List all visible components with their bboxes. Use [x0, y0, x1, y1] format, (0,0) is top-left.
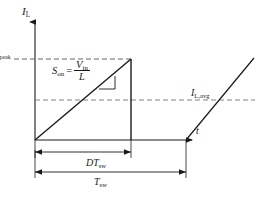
slope-symbol: Son [52, 65, 64, 76]
inductor-current-waveform-figure: IL Ipeak IL,avg t DTsw Tsw Son = Vin L [0, 0, 262, 203]
equals-sign: = [65, 65, 73, 76]
duty-cycle-label-main: DT [86, 157, 99, 168]
slope-formula: Son = Vin L [52, 59, 90, 82]
slope-triangle [99, 76, 115, 89]
y-axis-label-subscript: L [26, 11, 30, 19]
fraction-denominator: L [77, 71, 87, 82]
peak-current-label: Ipeak [0, 50, 10, 59]
switching-period-label-subscript: sw [100, 181, 107, 188]
slope-fraction: Vin L [74, 59, 90, 82]
slope-symbol-subscript: on [57, 70, 64, 77]
duty-cycle-label: DTsw [86, 158, 106, 168]
waveform-drawing [0, 0, 262, 203]
average-current-label-subscript: L,avg [194, 92, 209, 99]
fraction-numerator: Vin [74, 59, 90, 71]
average-current-label: IL,avg [191, 88, 210, 98]
fraction-numerator-main: V [76, 59, 82, 70]
fraction-numerator-subscript: in [83, 64, 88, 71]
peak-current-label-subscript: peak [0, 54, 10, 60]
duty-cycle-label-subscript: sw [99, 162, 106, 169]
switching-period-label-main: T [94, 176, 100, 187]
x-axis-label: t [196, 126, 199, 136]
switching-period-label: Tsw [94, 177, 107, 187]
y-axis-label: IL [22, 6, 30, 17]
x-axis-label-main: t [196, 125, 199, 136]
